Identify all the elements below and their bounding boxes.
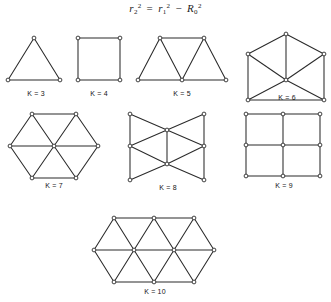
graph-vertex — [158, 36, 162, 40]
graph-diagram-k7 — [8, 112, 100, 192]
graph-vertex — [281, 174, 285, 178]
graph-k5: K = 5 — [136, 34, 228, 90]
graph-edge — [248, 54, 286, 80]
graph-edge — [114, 250, 134, 282]
graph-edge — [54, 114, 76, 146]
graph-k4: K = 4 — [70, 34, 128, 90]
graph-vertex — [58, 78, 62, 82]
graph-vertex — [244, 174, 248, 178]
graph-vertex — [202, 36, 206, 40]
graph-vertex — [202, 178, 206, 182]
graph-vertex — [30, 176, 34, 180]
graph-diagram-k4 — [70, 34, 128, 90]
graph-edge — [34, 38, 60, 80]
graph-edge — [154, 250, 174, 282]
graph-edge — [32, 146, 54, 178]
graph-k8: K = 8 — [128, 112, 208, 194]
graph-vertex — [118, 78, 122, 82]
graph-label-k7: K = 7 — [8, 182, 100, 189]
graph-edge — [10, 114, 32, 146]
equation-rhs1-sup: 2 — [167, 2, 171, 10]
graph-vertex — [318, 174, 322, 178]
graph-vertex — [96, 144, 100, 148]
graph-label-k3: K = 3 — [4, 90, 68, 97]
graph-edge — [130, 114, 167, 130]
graph-vertex — [30, 112, 34, 116]
graph-vertex — [284, 32, 288, 36]
graph-k6: K = 6 — [244, 32, 330, 104]
graph-edge — [8, 38, 34, 80]
graph-edge — [167, 114, 204, 130]
graph-edge — [94, 218, 114, 250]
graph-edge — [174, 218, 194, 250]
graph-vertex — [118, 36, 122, 40]
graph-vertex — [52, 144, 56, 148]
graph-edge — [138, 38, 160, 80]
graph-diagram-k5 — [136, 34, 228, 90]
graph-edge — [167, 164, 204, 180]
graph-edge — [130, 164, 167, 180]
graph-edge — [286, 34, 324, 54]
graph-vertex — [76, 36, 80, 40]
graph-vertex — [180, 78, 184, 82]
graph-vertex — [202, 112, 206, 116]
graph-vertex — [202, 144, 206, 148]
equation-minus: − — [173, 2, 184, 14]
graph-edge — [204, 38, 226, 80]
graph-edge — [76, 146, 98, 178]
graph-edge — [130, 146, 167, 164]
graph-label-k5: K = 5 — [136, 90, 228, 97]
graph-vertex — [32, 36, 36, 40]
graph-edge — [248, 34, 286, 54]
graph-vertex — [128, 178, 132, 182]
graph-vertex — [8, 144, 12, 148]
graph-label-k8: K = 8 — [128, 184, 208, 191]
equation-rhs2-base: R — [187, 2, 194, 14]
graph-diagram-k3 — [4, 34, 68, 90]
graph-vertex — [136, 78, 140, 82]
graph-vertex — [212, 248, 216, 252]
graph-diagram-k9 — [244, 112, 324, 192]
graph-edge — [130, 130, 167, 146]
graph-k3: K = 3 — [4, 34, 68, 90]
graph-edge — [194, 218, 214, 250]
graph-vertex — [172, 248, 176, 252]
graph-edge — [160, 38, 182, 80]
graph-vertex — [152, 216, 156, 220]
graph-k10: K = 10 — [92, 216, 218, 300]
graph-vertex — [112, 280, 116, 284]
graph-vertex — [281, 143, 285, 147]
graph-vertex — [152, 280, 156, 284]
graph-edge — [286, 54, 324, 80]
graph-edge — [134, 218, 154, 250]
graph-vertex — [281, 112, 285, 116]
graph-vertex — [246, 52, 250, 56]
graph-label-k9: K = 9 — [244, 182, 324, 189]
graph-edge — [114, 218, 134, 250]
graph-diagram-k8 — [128, 112, 208, 194]
graph-vertex — [318, 143, 322, 147]
graph-edge — [54, 146, 76, 178]
equation-lhs-sup: 2 — [138, 2, 142, 10]
graph-edge — [167, 130, 204, 146]
graph-vertex — [74, 112, 78, 116]
graph-edge — [134, 250, 154, 282]
graph-vertex — [76, 78, 80, 82]
graph-edge — [182, 38, 204, 80]
figure-root: r22 = r12 − R02 K = 3K = 4K = 5K = 6K = … — [0, 0, 331, 302]
graph-edge — [10, 146, 32, 178]
equation-caption: r22 = r12 − R02 — [0, 2, 331, 16]
graph-vertex — [322, 52, 326, 56]
graph-edge — [174, 250, 194, 282]
graph-edge — [194, 250, 214, 282]
graph-vertex — [244, 143, 248, 147]
graph-vertex — [74, 176, 78, 180]
graph-vertex — [92, 248, 96, 252]
graph-vertex — [132, 248, 136, 252]
graph-edge — [94, 250, 114, 282]
graph-vertex — [6, 78, 10, 82]
equation-equals: = — [145, 2, 156, 14]
graph-vertex — [165, 128, 169, 132]
graph-label-k6: K = 6 — [244, 94, 330, 101]
graph-vertex — [244, 112, 248, 116]
